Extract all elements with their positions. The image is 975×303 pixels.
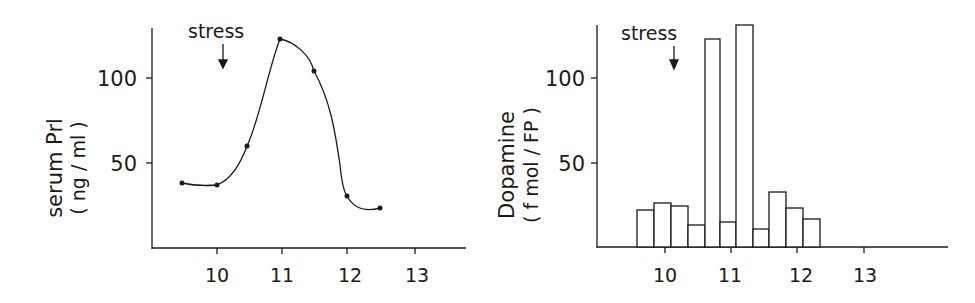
bar xyxy=(786,208,803,247)
stress-arrow-right-icon xyxy=(670,60,678,69)
left-xtick-label-12: 12 xyxy=(338,264,362,286)
right-y-axis-label: Dopamine xyxy=(495,111,519,219)
left-annotation-stress: stress xyxy=(188,20,244,42)
left-xtick-label-10: 10 xyxy=(205,264,229,286)
prolactin-points xyxy=(180,37,383,211)
bar xyxy=(688,225,705,247)
right-xtick-label-12: 12 xyxy=(789,264,813,286)
stress-arrow-left-icon xyxy=(219,60,227,68)
right-y-axis-unit: ( f mol / FP ) xyxy=(520,107,542,223)
left-xtick-label-13: 13 xyxy=(405,264,429,286)
left-ytick-label-50: 50 xyxy=(110,152,137,176)
left-y-axis-label: serum Prl xyxy=(43,118,67,218)
bar xyxy=(769,192,786,247)
bar xyxy=(705,39,720,247)
figure: stress 100 50 10 11 12 13 serum Prl ( ng… xyxy=(0,0,975,303)
bar xyxy=(637,210,654,247)
right-xtick-label-11: 11 xyxy=(718,264,742,286)
left-ytick-label-100: 100 xyxy=(97,67,137,91)
bar xyxy=(736,25,753,247)
bar xyxy=(654,203,671,247)
left-chart xyxy=(146,28,466,254)
left-y-axis-unit: ( ng / ml ) xyxy=(67,121,89,214)
bar xyxy=(753,229,769,247)
right-annotation-stress: stress xyxy=(621,22,677,44)
right-xtick-label-13: 13 xyxy=(853,264,877,286)
prolactin-curve xyxy=(182,39,380,210)
left-xtick-label-11: 11 xyxy=(270,264,294,286)
dopamine-bars xyxy=(637,25,820,247)
bar xyxy=(803,219,820,247)
right-chart xyxy=(591,25,948,253)
right-ytick-label-50: 50 xyxy=(558,152,585,176)
bar xyxy=(671,206,688,247)
right-xtick-label-10: 10 xyxy=(653,264,677,286)
right-ytick-label-100: 100 xyxy=(545,67,585,91)
bar xyxy=(720,222,736,247)
